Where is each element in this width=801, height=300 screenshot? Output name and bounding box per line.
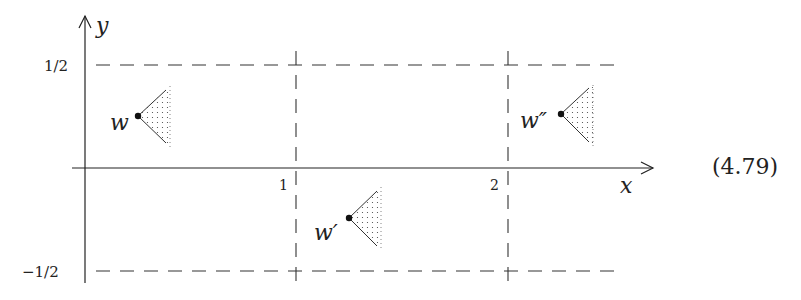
y-axis-label: y (95, 13, 109, 38)
y-tick-half: 1/2 (44, 57, 68, 75)
wedge-w-double-prime (558, 85, 593, 146)
wedge-w-prime (346, 187, 381, 250)
point-w-label: w (110, 110, 129, 135)
axes (72, 16, 653, 283)
point-w-prime-label: w′ (314, 220, 338, 245)
x-axis-label: x (620, 173, 633, 198)
diagram-canvas: y x 1/2 −1/2 1 2 w w′ w″ (4.79) (0, 0, 801, 300)
point-w-dot (135, 113, 141, 119)
point-w-double-prime-dot (558, 111, 564, 117)
y-tick-neg-half: −1/2 (22, 263, 59, 281)
point-w-prime-dot (346, 215, 352, 221)
x-tick-1: 1 (279, 177, 288, 193)
point-w-double-prime-label: w″ (520, 108, 548, 133)
wedge-w (135, 86, 170, 147)
x-tick-2: 2 (490, 177, 499, 193)
equation-number: (4.79) (712, 154, 778, 179)
